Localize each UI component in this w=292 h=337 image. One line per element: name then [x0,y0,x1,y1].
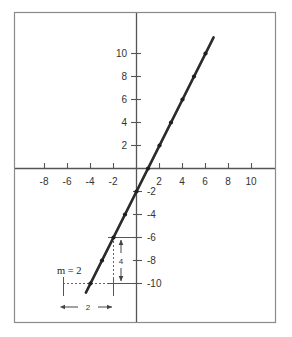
data-point [157,143,161,147]
data-point [88,281,92,285]
run-label: 2 [86,303,91,312]
rise-label: 4 [119,257,124,266]
x-tick-label: -8 [40,176,49,187]
graph-figure: -8 -6 -4 -2 2 4 6 8 10 2 4 6 8 10 [0,0,292,337]
data-point [146,166,150,170]
x-tick-label: 10 [245,176,257,187]
y-tick-label: -6 [147,232,156,243]
x-tick-label: 4 [179,176,185,187]
x-tick-label: -2 [109,176,118,187]
y-tick-label: -10 [147,278,162,289]
data-point [169,120,173,124]
data-point [134,189,138,193]
data-point [100,258,104,262]
y-tick-label: 4 [121,117,127,128]
data-point [203,51,207,55]
y-tick-label: 10 [116,48,128,59]
y-tick-label: -8 [147,255,156,266]
x-tick-label: -4 [86,176,95,187]
data-point [123,212,127,216]
x-tick-label: -6 [63,176,72,187]
y-tick-label: 6 [121,94,127,105]
y-tick-label: -2 [147,186,156,197]
x-tick-label: 8 [225,176,231,187]
data-point [180,97,184,101]
y-tick-label: 2 [121,140,127,151]
data-point [192,74,196,78]
x-tick-label: 2 [156,176,162,187]
coordinate-plane-chart: -8 -6 -4 -2 2 4 6 8 10 2 4 6 8 10 [0,0,292,337]
y-tick-label: 8 [121,71,127,82]
y-tick-label: -4 [147,209,156,220]
x-tick-label: 6 [202,176,208,187]
data-point [111,235,115,239]
slope-text-label: m = 2 [57,265,82,276]
